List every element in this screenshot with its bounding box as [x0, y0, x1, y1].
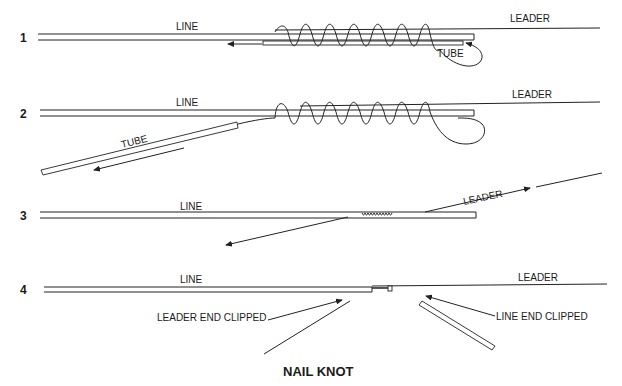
tube: [41, 122, 238, 175]
tube-label: TUBE: [437, 48, 464, 59]
line-label: LINE: [180, 274, 203, 285]
diagram-title: NAIL KNOT: [283, 364, 354, 379]
line-label: LINE: [176, 97, 199, 108]
leader-tail: [536, 173, 602, 187]
clipped-line-end: [419, 301, 495, 350]
step-3: 3 LINE LEADER: [20, 173, 602, 245]
line-end-clipped-label: LINE END CLIPPED: [496, 311, 588, 322]
leader-label: LEADER: [512, 89, 552, 100]
nail-knot-diagram: 1 LINE LEADER TUBE 2 LINE LEADER TUBE: [0, 0, 622, 386]
wraps: [362, 213, 392, 215]
leader-label: LEADER: [462, 188, 503, 207]
step-1: 1 LINE LEADER TUBE: [20, 13, 600, 66]
leader-end-pointer: [268, 300, 342, 320]
leader-end-clipped-label: LEADER END CLIPPED: [157, 312, 266, 323]
step-number: 3: [20, 209, 27, 223]
step-2: 2 LINE LEADER TUBE: [20, 89, 600, 175]
leader: [372, 284, 607, 286]
leader: [275, 28, 600, 30]
fly-line: [40, 212, 476, 218]
fly-line: [44, 287, 372, 292]
leader-label: LEADER: [518, 272, 558, 283]
line-label: LINE: [176, 21, 199, 32]
wraps: [275, 102, 485, 144]
leader-label: LEADER: [510, 13, 550, 24]
line-end: [238, 118, 275, 124]
nail-knot: [372, 286, 392, 291]
step-number: 4: [20, 283, 27, 297]
step-number: 2: [20, 107, 27, 121]
step-4: 4 LINE LEADER LEADER END CLIPPED LINE EN…: [20, 272, 607, 379]
step-number: 1: [20, 31, 27, 45]
leader: [300, 102, 600, 106]
line-label: LINE: [180, 201, 203, 212]
line-end-arrow: [226, 217, 348, 245]
